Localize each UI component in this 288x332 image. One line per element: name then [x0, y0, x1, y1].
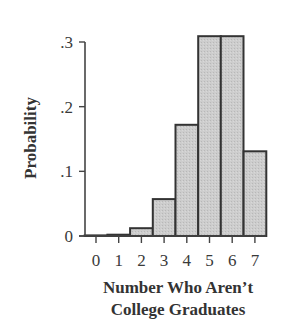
bar-7: [244, 151, 267, 236]
x-tick-label: 3: [160, 251, 169, 270]
x-tick-label: 4: [183, 251, 192, 270]
bar-5: [198, 36, 221, 236]
x-axis-title-line-1: Number Who Aren’t: [103, 278, 254, 297]
y-tick-label: .2: [60, 98, 73, 117]
bar-6: [221, 36, 244, 236]
y-tick-label: .1: [60, 162, 73, 181]
x-tick-label: 7: [251, 251, 260, 270]
bar-4: [176, 125, 199, 236]
x-tick-label: 0: [92, 251, 101, 270]
x-tick-label: 2: [137, 251, 146, 270]
bar-2: [130, 228, 153, 236]
bars: [85, 36, 267, 236]
probability-histogram: 0.1.2.301234567Number Who Aren’tCollege …: [0, 0, 288, 332]
x-tick-label: 6: [228, 251, 237, 270]
y-tick-label: 0: [65, 227, 74, 246]
x-tick-label: 1: [114, 251, 123, 270]
x-axis-title-line-2: College Graduates: [111, 300, 246, 319]
y-axis-title: Probability: [21, 97, 40, 179]
y-tick-label: .3: [60, 33, 73, 52]
x-tick-label: 5: [205, 251, 214, 270]
bar-3: [153, 199, 176, 236]
